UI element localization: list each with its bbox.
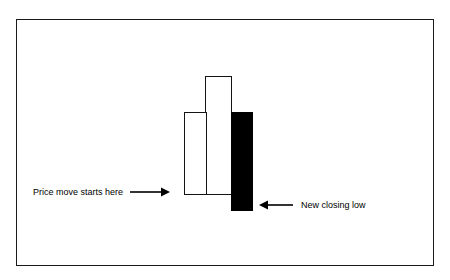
annotation-label-left: Price move starts here bbox=[33, 187, 123, 198]
annotation-new-closing-low: New closing low bbox=[259, 198, 366, 212]
arrow-right-icon bbox=[130, 186, 170, 198]
candle-body-first-hollow bbox=[184, 112, 207, 195]
candle-body-second-hollow bbox=[205, 76, 232, 195]
annotation-label-right: New closing low bbox=[301, 200, 366, 211]
figure-root: Price move starts here New closing low bbox=[0, 0, 450, 280]
arrow-left-icon bbox=[259, 199, 293, 211]
candle-body-third-filled bbox=[231, 112, 253, 211]
annotation-price-move-starts-here: Price move starts here bbox=[33, 185, 170, 199]
